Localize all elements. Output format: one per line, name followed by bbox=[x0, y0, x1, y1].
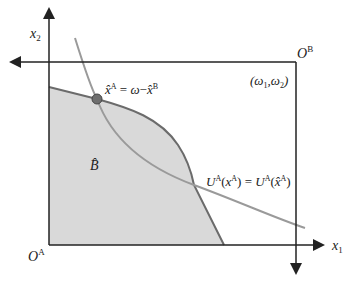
indifference-label: UA(xA) = UA(x̂A) bbox=[206, 174, 291, 189]
edgeworth-box-diagram: x2 x1 OA OB (ω1,ω2) x̂A = ω−x̂B B̂ UA(xA… bbox=[0, 0, 355, 281]
budget-set-region bbox=[49, 87, 224, 245]
x1-label: x1 bbox=[331, 238, 343, 255]
origin-b-label: OB bbox=[297, 44, 313, 61]
endowment-label: (ω1,ω2) bbox=[250, 73, 288, 90]
point-label: x̂A = ω−x̂B bbox=[104, 82, 158, 97]
x2-label: x2 bbox=[29, 26, 41, 43]
budget-set-label: B̂ bbox=[90, 158, 99, 173]
allocation-point bbox=[92, 94, 102, 104]
origin-a-label: OA bbox=[28, 247, 45, 264]
